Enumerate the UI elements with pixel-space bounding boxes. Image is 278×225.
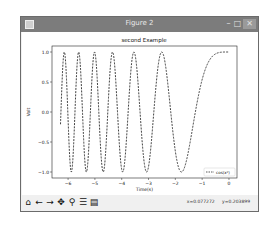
forward-arrow-icon[interactable]: → <box>45 197 55 208</box>
navigation-toolbar: ⌂ ← → ✥ ⚲ ☰ ▤ x=0.077272 y=0.203899 <box>21 195 258 211</box>
y-tick-label: −0.5 <box>38 140 49 145</box>
configure-subplots-icon[interactable]: ☰ <box>78 197 88 208</box>
title-bar[interactable]: Figure 2 – □ ✕ <box>21 17 258 32</box>
y-axis: −1.0−0.50.00.51.0 <box>38 50 52 175</box>
y-coordinate: y=0.203899 <box>222 199 250 204</box>
coordinate-readout: x=0.077272 y=0.203899 <box>181 199 250 204</box>
close-button[interactable]: ✕ <box>243 19 256 29</box>
y-tick-label: −1.0 <box>38 170 49 175</box>
zoom-icon[interactable]: ⚲ <box>67 197 77 208</box>
maximize-button[interactable]: □ <box>233 19 242 29</box>
minimize-button[interactable]: – <box>224 19 233 29</box>
pan-icon[interactable]: ✥ <box>56 197 66 208</box>
legend-label: cos(x²) <box>216 170 230 175</box>
figure-canvas[interactable]: second Example −6−5−4−3−2−10 −1.0−0.50.0… <box>22 32 258 195</box>
x-tick-label: −6 <box>65 181 72 186</box>
figure-window: Figure 2 – □ ✕ second Example −6−5−4−3−2… <box>20 16 259 212</box>
home-icon[interactable]: ⌂ <box>23 197 33 208</box>
back-arrow-icon[interactable]: ← <box>34 197 44 208</box>
x-tick-label: −4 <box>118 181 125 186</box>
series-line-cos-x2 <box>61 52 229 172</box>
plot-area <box>52 46 237 178</box>
x-tick-label: −1 <box>199 181 206 186</box>
chart-svg: second Example −6−5−4−3−2−10 −1.0−0.50.0… <box>22 32 258 195</box>
y-axis-label: Volt <box>26 108 31 117</box>
y-tick-label: 0.0 <box>42 110 49 115</box>
y-tick-label: 0.5 <box>42 80 49 85</box>
x-axis-label: Time(s) <box>135 187 153 192</box>
window-title: Figure 2 <box>21 19 258 27</box>
chart-title: second Example <box>121 37 167 44</box>
x-coordinate: x=0.077272 <box>187 199 215 204</box>
x-tick-label: −5 <box>92 181 99 186</box>
x-tick-label: −2 <box>172 181 179 186</box>
x-tick-label: 0 <box>228 181 231 186</box>
save-icon[interactable]: ▤ <box>89 197 99 208</box>
x-tick-label: −3 <box>145 181 152 186</box>
y-tick-label: 1.0 <box>42 50 49 55</box>
x-axis: −6−5−4−3−2−10 <box>65 178 231 186</box>
legend: cos(x²) <box>204 168 235 176</box>
